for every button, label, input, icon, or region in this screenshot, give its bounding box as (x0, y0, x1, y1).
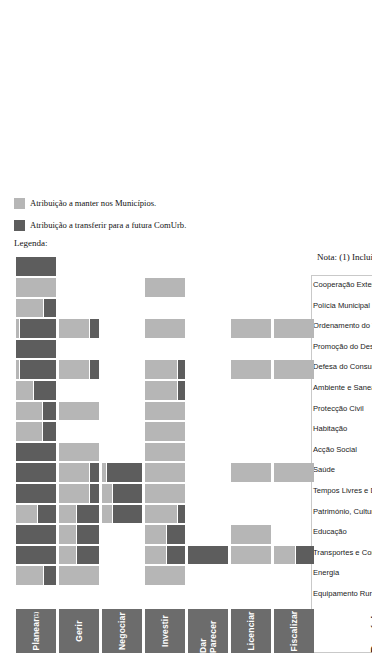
matrix-cell[interactable] (145, 319, 185, 338)
matrix-cell[interactable] (16, 463, 56, 482)
segment-transfer-comurb (43, 402, 56, 421)
segment-keep-municipality (59, 505, 77, 524)
matrix-cell[interactable] (231, 525, 271, 544)
figure-root: Domínios Equipamento Rural e UrbanoEnerg… (0, 0, 372, 671)
domain-label[interactable]: Ordenamento do Território e Urbanismo (311, 317, 372, 336)
domain-label[interactable]: Protecção Civil (311, 399, 372, 418)
segment-transfer-comurb (90, 319, 99, 338)
domain-label[interactable]: Saúde (311, 461, 372, 480)
segment-keep-municipality (274, 463, 314, 482)
matrix-cell[interactable] (59, 360, 99, 379)
matrix-cell[interactable] (145, 278, 185, 297)
matrix-cell[interactable] (16, 278, 56, 297)
matrix-cell[interactable] (145, 381, 185, 400)
domain-label[interactable]: Ambiente e Saneamento Básico (311, 378, 372, 397)
domain-label[interactable]: Energia (311, 564, 372, 583)
matrix-cell[interactable] (145, 402, 185, 421)
function-header-superscript: (1) (33, 612, 39, 619)
segment-transfer-comurb (167, 546, 185, 565)
domain-label[interactable]: Equipamento Rural e Urbano (311, 584, 372, 603)
matrix-cell[interactable] (145, 443, 185, 462)
matrix-cell[interactable] (274, 463, 314, 482)
segment-keep-municipality (16, 505, 38, 524)
matrix-cell[interactable] (16, 299, 56, 318)
function-header-label: Licenciar (246, 611, 256, 650)
segment-transfer-comurb (16, 340, 56, 359)
matrix-cell[interactable] (16, 340, 56, 359)
function-header-dar-parecer[interactable]: Dar Parecer (188, 609, 228, 653)
domain-label[interactable]: Património, Cultura e Ciência (311, 502, 372, 521)
matrix-cell[interactable] (16, 319, 56, 338)
function-header-investir[interactable]: Investir (145, 609, 185, 653)
matrix-cell[interactable] (59, 319, 99, 338)
matrix-cell[interactable] (231, 463, 271, 482)
matrix-cell[interactable] (145, 546, 185, 565)
matrix-cell[interactable] (274, 360, 314, 379)
matrix-cell[interactable] (102, 484, 142, 503)
matrix-cell[interactable] (59, 402, 99, 421)
domain-label[interactable]: Tempos Livres e Desporto (311, 481, 372, 500)
segment-transfer-comurb (178, 381, 185, 400)
matrix-cell[interactable] (274, 319, 314, 338)
domain-label[interactable]: Habitação (311, 420, 372, 439)
matrix-cell[interactable] (59, 546, 99, 565)
domain-label[interactable]: Cooperação Externa (311, 275, 372, 294)
matrix-cell[interactable] (102, 463, 142, 482)
matrix-cell[interactable] (59, 484, 99, 503)
matrix-cell[interactable] (102, 505, 142, 524)
segment-transfer-comurb (90, 360, 99, 379)
segment-transfer-comurb (77, 525, 99, 544)
matrix-cell[interactable] (188, 546, 228, 565)
matrix-cell[interactable] (59, 505, 99, 524)
legend-title: Legenda: (14, 238, 47, 248)
matrix-cell[interactable] (145, 422, 185, 441)
segment-keep-municipality (145, 566, 185, 585)
domain-label[interactable]: Educação (311, 523, 372, 542)
domain-label[interactable]: Polícia Municipal (311, 296, 372, 315)
segment-transfer-comurb (113, 505, 142, 524)
matrix-cell[interactable] (145, 463, 185, 482)
function-header-gerir[interactable]: Gerir (59, 609, 99, 653)
matrix-cell[interactable] (16, 381, 56, 400)
matrix-cell[interactable] (59, 525, 99, 544)
matrix-cell[interactable] (16, 484, 56, 503)
matrix-cell[interactable] (16, 360, 56, 379)
domain-label[interactable]: Defesa do Consumidor (311, 358, 372, 377)
function-header-planear[interactable]: Planear(1) (16, 609, 56, 653)
matrix-cell[interactable] (145, 525, 185, 544)
function-header-licenciar[interactable]: Licenciar (231, 609, 271, 653)
segment-keep-municipality (102, 484, 113, 503)
matrix-cell[interactable] (145, 505, 185, 524)
matrix-cell[interactable] (145, 566, 185, 585)
matrix-cell[interactable] (145, 360, 185, 379)
segment-transfer-comurb (77, 546, 99, 565)
matrix-cell[interactable] (16, 443, 56, 462)
matrix-cell[interactable] (145, 484, 185, 503)
matrix-cell[interactable] (59, 566, 99, 585)
matrix-cell[interactable] (16, 257, 56, 276)
matrix-cell[interactable] (16, 525, 56, 544)
segment-keep-municipality (59, 463, 90, 482)
function-header-fiscalizar[interactable]: Fiscalizar (274, 609, 314, 653)
matrix-cell[interactable] (59, 443, 99, 462)
matrix-cell[interactable] (231, 546, 271, 565)
domain-label[interactable]: Acção Social (311, 440, 372, 459)
segment-keep-municipality (16, 381, 34, 400)
segment-transfer-comurb (16, 443, 56, 462)
segment-transfer-comurb (296, 546, 314, 565)
segment-transfer-comurb (178, 360, 185, 379)
matrix-cell[interactable] (16, 566, 56, 585)
chart-canvas: Domínios Equipamento Rural e UrbanoEnerg… (0, 0, 372, 671)
matrix-cell[interactable] (231, 319, 271, 338)
matrix-cell[interactable] (59, 463, 99, 482)
domain-label[interactable]: Promoção do Desenvolvimento (311, 337, 372, 356)
segment-transfer-comurb (44, 566, 56, 585)
matrix-cell[interactable] (274, 546, 314, 565)
function-header-negociar[interactable]: Negociar (102, 609, 142, 653)
matrix-cell[interactable] (16, 546, 56, 565)
matrix-cell[interactable] (16, 422, 56, 441)
matrix-cell[interactable] (16, 402, 56, 421)
domain-label[interactable]: Transportes e Comunicações (311, 543, 372, 562)
matrix-cell[interactable] (231, 360, 271, 379)
matrix-cell[interactable] (16, 505, 56, 524)
